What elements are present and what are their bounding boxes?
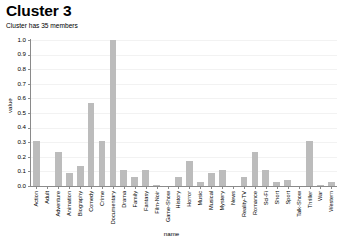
x-tick-mark [200,186,201,189]
bar-slot [173,40,184,186]
bar-slot [293,40,304,186]
y-tick-label: 1.0 [17,36,26,43]
x-tick: Adult [42,186,53,236]
x-tick-mark [233,186,234,189]
y-tick-label: 0.4 [17,123,26,130]
x-tick-label: Mystery [219,191,225,211]
x-tick-label: Comedy [88,191,94,212]
bar[interactable] [66,173,73,186]
bar[interactable] [175,177,182,186]
bar-slot [86,40,97,186]
x-axis-title: name [0,230,343,237]
bar-slot [260,40,271,186]
x-tick: Comedy [86,186,97,236]
bar-slot [217,40,228,186]
x-tick-mark [299,186,300,189]
bar[interactable] [219,170,226,186]
x-tick-mark [266,186,267,189]
x-tick-mark [310,186,311,189]
y-tick-label: 0.8 [17,65,26,72]
x-tick-label: News [230,191,236,205]
cluster-bar-chart: Cluster 3 Cluster has 35 members value 1… [0,0,343,243]
y-axis-line [30,39,31,187]
x-tick-mark [277,186,278,189]
bar[interactable] [55,152,62,186]
x-tick-mark [255,186,256,189]
bar-series [31,40,337,186]
bar-slot [282,40,293,186]
x-tick-label: Musical [208,191,214,210]
x-tick-mark [211,186,212,189]
x-tick-label: War [317,191,323,201]
x-tick-mark [135,186,136,189]
bar[interactable] [186,161,193,186]
x-tick: Biography [75,186,86,236]
x-tick: History [173,186,184,236]
x-tick-mark [320,186,321,189]
bar[interactable] [120,170,127,186]
x-tick-mark [146,186,147,189]
x-tick-mark [58,186,59,189]
bar-slot [64,40,75,186]
x-tick: Game-Show [162,186,173,236]
x-tick: Animation [64,186,75,236]
bar[interactable] [252,152,259,186]
bar-slot [249,40,260,186]
x-tick: Musical [206,186,217,236]
bar[interactable] [306,141,313,186]
x-tick-mark [102,186,103,189]
y-tick-label: 0.9 [17,50,26,57]
bar[interactable] [142,170,149,186]
x-tick: Crime [97,186,108,236]
bar[interactable] [99,141,106,186]
bar[interactable] [110,40,117,186]
x-tick: Horror [184,186,195,236]
bar[interactable] [241,177,248,186]
x-tick-mark [47,186,48,189]
chart-subtitle: Cluster has 35 members [6,21,78,30]
x-tick: Fantasy [140,186,151,236]
x-tick: Western [326,186,337,236]
x-tick-label: Western [328,191,334,212]
bar-slot [326,40,337,186]
bar-slot [53,40,64,186]
bar-slot [228,40,239,186]
x-tick-label: Horror [186,191,192,207]
bar-slot [315,40,326,186]
bar-slot [118,40,129,186]
x-tick-label: History [175,191,181,208]
x-tick-mark [189,186,190,189]
bar[interactable] [262,170,269,186]
y-tick-label: 0.5 [17,109,26,116]
bar-slot [151,40,162,186]
y-tick-label: 0.6 [17,94,26,101]
bar[interactable] [33,141,40,186]
x-axis-ticks: ActionAdultAdventureAnimationBiographyCo… [31,186,337,236]
x-tick-label: Documentary [110,191,116,224]
bar[interactable] [131,177,138,186]
x-tick-label: Reality-TV [241,191,247,217]
x-tick-mark [244,186,245,189]
x-tick: Short [271,186,282,236]
x-tick-label: Film-Noir [154,191,160,214]
x-tick-mark [124,186,125,189]
x-tick-label: Animation [66,191,72,216]
x-tick: News [228,186,239,236]
x-tick-mark [36,186,37,189]
bar-slot [195,40,206,186]
bar[interactable] [88,103,95,186]
bar[interactable] [77,166,84,186]
x-tick: Thriller [304,186,315,236]
bar-slot [42,40,53,186]
x-tick-mark [222,186,223,189]
x-tick-label: Fantasy [143,191,149,211]
y-tick-label: 0.3 [17,138,26,145]
bar[interactable] [208,173,215,186]
bar-slot [97,40,108,186]
x-tick: Reality-TV [239,186,250,236]
x-tick-label: Drama [121,191,127,208]
bar-slot [162,40,173,186]
x-tick-label: Adventure [55,191,61,217]
x-tick: Family [129,186,140,236]
bar-slot [107,40,118,186]
